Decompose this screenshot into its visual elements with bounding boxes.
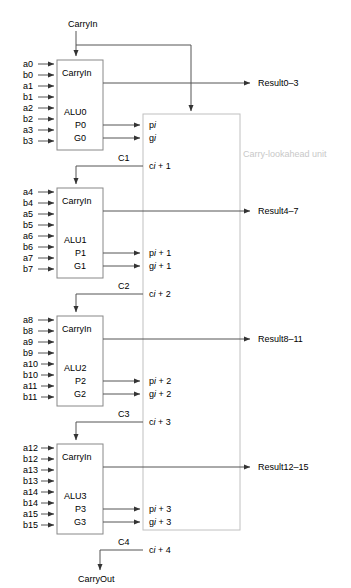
alu2-p-port-label: P2: [75, 376, 86, 386]
alu3-input-b14: b14: [23, 498, 38, 508]
alu0-carryout-label: C1: [118, 153, 130, 163]
alu3-input-a12: a12: [23, 443, 38, 453]
alu3-carryout-label: C4: [118, 537, 130, 547]
alu1-lookahead-g-label: gi + 1: [149, 261, 171, 271]
alu2-input-a9: a9: [23, 337, 33, 347]
alu2-input-a10: a10: [23, 359, 38, 369]
alu0-group: CarryIn ALU0 P0 G0 a0 b0 a1 b1 a2 b2 a3 …: [23, 59, 299, 184]
alu3-lookahead-p-label: pi + 3: [149, 504, 171, 514]
alu2-input-b8: b8: [23, 326, 33, 336]
alu1-p-port-label: P1: [75, 248, 86, 258]
alu1-input-a6: a6: [23, 231, 33, 241]
alu1-input-b6: b6: [23, 242, 33, 252]
alu1-lookahead-p-label: pi + 1: [149, 248, 171, 258]
alu3-p-port-label: P3: [75, 504, 86, 514]
alu1-input-a4: a4: [23, 187, 33, 197]
alu0-input-a0: a0: [23, 59, 33, 69]
alu1-input-b5: b5: [23, 220, 33, 230]
alu3-carryin-port-label: CarryIn: [62, 452, 92, 462]
alu-carry-lookahead-diagram: CarryIn Carry-lookahead unit CarryIn ALU…: [0, 0, 351, 588]
alu0-input-b3: b3: [23, 136, 33, 146]
alu1-carryin-port-label: CarryIn: [62, 196, 92, 206]
alu0-name-label: ALU0: [64, 107, 87, 117]
top-carryin-label: CarryIn: [68, 19, 98, 29]
alu2-input-a8: a8: [23, 315, 33, 325]
alu3-input-a15: a15: [23, 509, 38, 519]
alu1-lookahead-c-label: ci + 2: [149, 289, 171, 299]
alu3-input-b15: b15: [23, 520, 38, 530]
alu3-g-port-label: G3: [74, 517, 86, 527]
alu2-name-label: ALU2: [64, 363, 87, 373]
alu1-input-a5: a5: [23, 209, 33, 219]
alu0-input-a3: a3: [23, 125, 33, 135]
alu0-g-port-label: G0: [74, 133, 86, 143]
alu1-input-b4: b4: [23, 198, 33, 208]
carry-lookahead-unit-label: Carry-lookahead unit: [243, 149, 327, 159]
alu2-lookahead-c-label: ci + 3: [149, 417, 171, 427]
alu2-input-b9: b9: [23, 348, 33, 358]
alu0-input-b0: b0: [23, 70, 33, 80]
alu3-name-label: ALU3: [64, 491, 87, 501]
alu2-input-a11: a11: [23, 381, 37, 391]
alu0-input-b1: b1: [23, 92, 33, 102]
alu1-input-b7: b7: [23, 264, 33, 274]
alu3-input-a14: a14: [23, 487, 38, 497]
bottom-carryout-label: CarryOut: [78, 574, 115, 584]
alu2-input-b11: b11: [23, 392, 37, 402]
alu2-input-b10: b10: [23, 370, 38, 380]
alu2-carryout-label: C3: [118, 409, 130, 419]
alu3-result-label: Result12–15: [258, 462, 309, 472]
alu2-group: CarryIn ALU2 P2 G2 a8 b8 a9 b9 a10 b10 a…: [23, 315, 303, 440]
alu3-lookahead-g-label: gi + 3: [149, 517, 171, 527]
alu3-input-b13: b13: [23, 476, 38, 486]
alu0-p-port-label: P0: [75, 120, 86, 130]
alu0-carry-c1-wire: [76, 166, 143, 184]
alu1-carry-c2-wire: [76, 294, 143, 312]
alu0-lookahead-g-label: gi: [149, 133, 157, 143]
alu0-input-a1: a1: [23, 81, 33, 91]
alu3-lookahead-c-label: ci + 4: [149, 545, 171, 555]
figure-canvas: CarryIn Carry-lookahead unit CarryIn ALU…: [0, 0, 351, 588]
alu1-input-a7: a7: [23, 253, 33, 263]
alu1-group: CarryIn ALU1 P1 G1 a4 b4 a5 b5 a6 b6 a7 …: [23, 187, 299, 312]
carry-lookahead-unit-box: [143, 114, 240, 530]
alu0-lookahead-c-label: ci + 1: [149, 161, 171, 171]
alu1-g-port-label: G1: [74, 261, 86, 271]
alu3-input-b12: b12: [23, 454, 38, 464]
alu3-carry-c4-wire: [100, 550, 143, 570]
alu1-name-label: ALU1: [64, 235, 87, 245]
alu3-input-a13: a13: [23, 465, 38, 475]
alu2-carryin-port-label: CarryIn: [62, 324, 92, 334]
alu0-carryin-port-label: CarryIn: [62, 68, 92, 78]
alu2-g-port-label: G2: [74, 389, 86, 399]
alu1-result-label: Result4–7: [258, 206, 299, 216]
alu2-lookahead-p-label: pi + 2: [149, 376, 171, 386]
alu2-carry-c3-wire: [76, 422, 143, 440]
alu3-group: CarryIn ALU3 P3 G3 a12 b12 a13 b13 a14 b…: [23, 443, 309, 570]
alu0-input-a2: a2: [23, 103, 33, 113]
alu0-result-label: Result0–3: [258, 78, 299, 88]
alu0-lookahead-p-label: pi: [149, 120, 157, 130]
alu2-result-label: Result8–11: [258, 334, 303, 344]
alu1-carryout-label: C2: [118, 281, 130, 291]
alu0-input-b2: b2: [23, 114, 33, 124]
alu2-lookahead-g-label: gi + 2: [149, 389, 171, 399]
